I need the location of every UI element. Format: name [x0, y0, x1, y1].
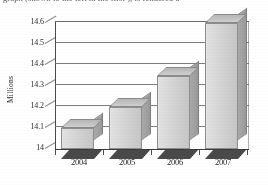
x-tick-label-2007: 2007 — [201, 157, 245, 167]
bar-front-face — [205, 23, 238, 149]
cut-off-caption: graph (shown to the left in the first ),… — [0, 0, 268, 7]
plot-right-edge — [248, 21, 249, 149]
bar-2005 — [109, 107, 142, 149]
bar-side-face — [238, 8, 247, 140]
bar-2006 — [157, 76, 190, 149]
y-axis-title: Millions — [6, 62, 15, 118]
bar-chart-figure: Millions 14.6 14.5 14.4 14.3 14.2 14.1 1… — [0, 7, 268, 185]
y-tick-label-14.4: 14.4 — [18, 59, 44, 68]
x-tick-label-2004: 2004 — [57, 157, 101, 167]
x-tick-mark — [151, 150, 152, 155]
caption-text: graph (shown to the left in the first ),… — [3, 0, 179, 3]
bar-2004 — [61, 128, 94, 149]
y-tick-label-14: 14 — [18, 143, 44, 152]
x-tick-mark — [199, 150, 200, 155]
bar-front-face — [109, 107, 142, 149]
x-tick-label-2005: 2005 — [105, 157, 149, 167]
y-tick-label-14.5: 14.5 — [18, 38, 44, 47]
y-tick-label-14.3: 14.3 — [18, 80, 44, 89]
x-tick-mark — [55, 150, 56, 155]
y-tick-label-14.6: 14.6 — [18, 17, 44, 26]
plot-area — [55, 21, 249, 149]
x-tick-label-2006: 2006 — [153, 157, 197, 167]
bar-front-face — [157, 76, 190, 149]
x-tick-mark — [247, 150, 248, 155]
bar-front-face — [61, 128, 94, 149]
y-tick-label-14.2: 14.2 — [18, 101, 44, 110]
x-axis-line — [55, 149, 249, 150]
bar-2007 — [205, 23, 238, 149]
y-tick-label-14.1: 14.1 — [18, 122, 44, 131]
x-tick-mark — [103, 150, 104, 155]
